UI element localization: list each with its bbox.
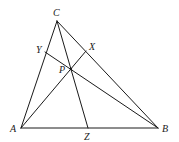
triangle-cevians-diagram: C A B Z Y X P [0,0,179,142]
point-p-marker [70,68,72,70]
label-y: Y [36,44,43,55]
label-x: X [88,41,96,52]
side-ca [21,21,57,128]
label-p: P [58,64,65,75]
label-a: A [9,123,17,134]
label-z: Z [84,131,90,142]
label-c: C [53,7,60,18]
cevian-ax [21,51,86,128]
label-b: B [162,123,168,134]
